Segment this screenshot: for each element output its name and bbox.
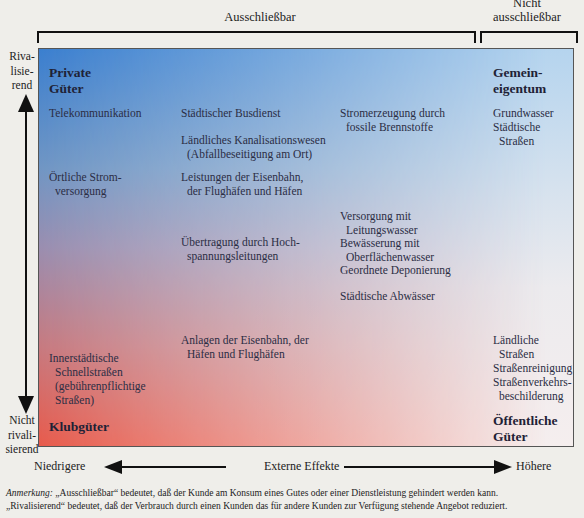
line: Städtische: [493, 121, 540, 133]
annotation-line1: Anmerkung: „Ausschließbar“ bedeutet, daß…: [6, 487, 498, 499]
item-oertliche-stromversorgung: Örtliche Strom- versorgung: [49, 170, 122, 198]
annotation-text1: „Ausschließbar“ bedeutet, daß der Kunde …: [53, 488, 498, 498]
line: fossile Brennstoffe: [340, 120, 445, 134]
item-beschilderung: Straßenverkehrs- beschilderung: [493, 375, 572, 403]
line: Örtliche Strom-: [49, 171, 122, 183]
line: Ländliches Kanalisationswesen: [181, 134, 326, 146]
private-line1: Private: [49, 65, 91, 80]
y-axis-bottom-label: Nicht rivali- sierend: [2, 413, 42, 457]
annotation-line2: „Rivalisierend“ bedeutet, daß der Verbra…: [6, 500, 507, 512]
corner-club-goods: Klubgüter: [49, 419, 109, 435]
y-bottom-line1: Nicht: [9, 414, 35, 426]
line: Anlagen der Eisenbahn, der: [181, 334, 309, 346]
y-bottom-line2: rivali-: [8, 429, 36, 441]
line: (gebührenpflichtige: [49, 379, 146, 393]
line: Schnellstraßen: [49, 365, 146, 379]
public-line1: Öffentliche: [493, 413, 557, 428]
common-line1: Gemein-: [493, 65, 543, 80]
item-stromerzeugung: Stromerzeugung durch fossile Brennstoffe: [340, 106, 445, 134]
line: Straßen: [493, 134, 540, 148]
excludable-bracket: [37, 31, 476, 43]
line: versorgung: [49, 184, 122, 198]
header-non-excludable-line2: ausschließbar: [493, 10, 561, 24]
x-axis-line-right: [344, 466, 496, 468]
non-excludable-bracket: [480, 31, 578, 43]
line: Straßenverkehrs-: [493, 376, 572, 388]
x-axis-right-label: Höhere: [516, 459, 551, 474]
arrow-right-icon: [492, 459, 512, 475]
goods-matrix: Private Güter Gemein- eigentum Klubgüter…: [38, 48, 574, 447]
line: (Abfallbeseitigung am Ort): [181, 147, 326, 161]
private-line2: Güter: [49, 81, 84, 96]
line: Stromerzeugung durch: [340, 107, 445, 119]
item-laendliche-strassen: Ländliche Straßen: [493, 333, 539, 361]
line: Straßen: [493, 347, 539, 361]
line: Innerstädtische: [49, 352, 119, 364]
corner-common-property: Gemein- eigentum: [493, 65, 546, 97]
item-kanalisation: Ländliches Kanalisationswesen (Abfallbes…: [181, 133, 326, 161]
line: Leitungswasser: [340, 223, 418, 237]
line: Häfen und Flughäfen: [181, 347, 309, 361]
corner-private-goods: Private Güter: [49, 65, 91, 97]
x-axis-left-label: Niedrigere: [34, 459, 85, 474]
item-bewaesserung: Bewässerung mit Oberflächenwasser: [340, 236, 434, 264]
header-non-excludable-line1: Nicht: [513, 0, 541, 10]
y-top-line3: rend: [12, 79, 32, 91]
line: spannungsleitungen: [181, 249, 300, 263]
header-excludable: Ausschließbar: [200, 10, 320, 24]
header-non-excludable: Nicht ausschließbar: [470, 0, 584, 24]
item-telekommunikation: Telekommunikation: [49, 106, 141, 120]
line: beschilderung: [493, 389, 572, 403]
x-axis-center-label: Externe Effekte: [264, 459, 339, 474]
item-anlagen: Anlagen der Eisenbahn, der Häfen und Flu…: [181, 333, 309, 361]
item-hochspannung: Übertragung durch Hoch- spannungsleitung…: [181, 235, 300, 263]
x-axis-line-left: [118, 466, 226, 468]
public-line2: Güter: [493, 429, 528, 444]
y-axis-line: [25, 110, 27, 400]
item-eisenbahn-leistungen: Leistungen der Eisenbahn, der Flughäfen …: [181, 170, 303, 198]
line: Bewässerung mit: [340, 237, 420, 249]
item-abwaesser: Städtische Abwässer: [340, 289, 435, 303]
y-top-line2: lisie-: [11, 65, 34, 77]
item-innerstaedtische-schnellstrassen: Innerstädtische Schnellstraßen (gebühren…: [49, 351, 146, 407]
line: Straßen): [49, 393, 146, 407]
line: Übertragung durch Hoch-: [181, 236, 300, 248]
y-top-line1: Riva-: [9, 50, 35, 62]
line: Leistungen der Eisenbahn,: [181, 171, 303, 183]
y-axis-top-label: Riva- lisie- rend: [2, 49, 42, 93]
annotation-label: Anmerkung:: [6, 488, 53, 498]
item-strassenreinigung: Straßenreinigung: [493, 361, 572, 375]
item-deponierung: Geordnete Deponierung: [340, 263, 451, 277]
line: Versorgung mit: [340, 210, 411, 222]
item-staedtische-strassen: Städtische Straßen: [493, 120, 540, 148]
item-grundwasser: Grundwasser: [493, 106, 554, 120]
line: Ländliche: [493, 334, 539, 346]
common-line2: eigentum: [493, 81, 546, 96]
line: der Flughäfen und Häfen: [181, 184, 303, 198]
corner-public-goods: Öffentliche Güter: [493, 413, 557, 445]
line: Oberflächenwasser: [340, 250, 434, 264]
item-busdienst: Städtischer Busdienst: [181, 106, 280, 120]
y-bottom-line3: sierend: [5, 443, 38, 455]
item-leitungswasser: Versorgung mit Leitungswasser: [340, 209, 418, 237]
